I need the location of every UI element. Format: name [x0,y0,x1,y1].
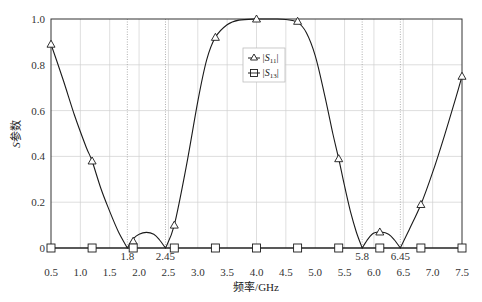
square-marker-icon [458,244,466,252]
y-tick-label: 0.6 [31,105,45,117]
y-axis-ticks: 00.20.40.60.81.0 [31,13,45,254]
s-parameter-chart: 0.51.01.52.02.53.03.54.04.55.05.56.06.57… [0,0,482,302]
square-marker-icon [335,244,343,252]
x-tick-label: 4.0 [250,266,264,278]
x-tick-label: 7.5 [455,266,469,278]
x-axis-ticks: 0.51.01.52.02.53.03.54.04.55.05.56.06.57… [44,266,469,278]
triangle-marker-icon [335,155,343,162]
annotation-label: 1.8 [120,250,134,262]
triangle-marker-icon [458,72,466,79]
square-marker-icon [88,244,96,252]
square-marker-icon [376,244,384,252]
y-tick-label: 0.8 [31,59,45,71]
annotation-label: 6.45 [391,250,411,262]
x-tick-label: 0.5 [44,266,58,278]
frequency-annotations: 1.82.455.86.45 [120,250,410,262]
annotation-label: 2.45 [156,250,176,262]
x-tick-label: 4.5 [279,266,293,278]
square-marker-icon [417,244,425,252]
y-tick-label: 0.2 [31,196,45,208]
x-tick-label: 7.0 [426,266,440,278]
svg-text:S参数: S参数 [9,120,22,148]
x-tick-label: 6.5 [396,266,410,278]
y-axis-title: S参数 [9,120,22,148]
y-tick-label: 0 [40,242,46,254]
square-marker-icon [253,244,261,252]
triangle-marker-icon [47,40,55,47]
legend-s13-label: |S [262,67,270,78]
square-marker-icon [294,244,302,252]
triangle-marker-icon [376,228,384,235]
x-tick-label: 5.5 [338,266,352,278]
triangle-marker-icon [129,237,137,244]
triangle-marker-icon [170,221,178,228]
x-tick-label: 2.5 [162,266,176,278]
annotation-label: 5.8 [355,250,369,262]
x-tick-label: 1.5 [103,266,117,278]
y-axis-title-rest: 参数 [9,120,22,142]
x-axis-title: 频率/GHz [233,280,279,293]
y-tick-label: 0.4 [31,150,45,162]
x-tick-label: 5.0 [308,266,322,278]
x-tick-label: 6.0 [367,266,381,278]
square-marker-icon [211,244,219,252]
legend: |S11| |S13| [243,48,285,82]
x-tick-label: 2.0 [132,266,146,278]
triangle-marker-icon [211,33,219,40]
legend-s11-bar: | [277,52,279,63]
legend-s13-bar: | [277,67,279,78]
x-tick-label: 3.5 [220,266,234,278]
legend-s11-label: |S [262,52,270,63]
square-marker-icon [47,244,55,252]
triangle-marker-icon [417,200,425,207]
triangle-marker-icon [88,157,96,164]
x-tick-label: 3.0 [191,266,205,278]
y-tick-label: 1.0 [31,13,45,25]
x-tick-label: 1.0 [73,266,87,278]
